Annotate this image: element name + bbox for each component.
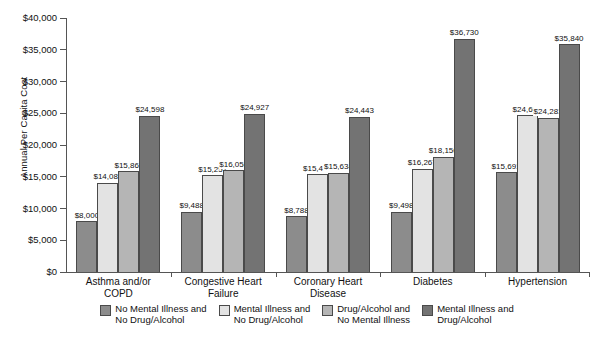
bar-slot: $14,081 <box>97 18 118 272</box>
bar[interactable] <box>181 212 202 272</box>
bar-slot: $9,488 <box>181 18 202 272</box>
y-axis-tick-label: $40,000 <box>23 12 57 24</box>
bar-slot: $15,430 <box>307 18 328 272</box>
bar-slot: $24,693 <box>517 18 538 272</box>
legend-swatch-icon <box>422 305 433 316</box>
bar-value-label: $9,488 <box>179 201 204 210</box>
legend-item[interactable]: Drug/Alcohol and No Mental Illness <box>322 303 410 325</box>
chart-legend: No Mental Illness and No Drug/AlcoholMen… <box>0 303 602 325</box>
bar[interactable] <box>454 39 475 272</box>
bar-slot: $16,267 <box>412 18 433 272</box>
y-axis-tick: $30,000 <box>0 76 66 88</box>
bar-slot: $16,058 <box>223 18 244 272</box>
y-axis-tick-label: $20,000 <box>23 139 57 151</box>
x-axis-tick-mark <box>589 272 590 277</box>
x-axis-category-label: Hypertension <box>473 276 602 288</box>
bar[interactable] <box>496 172 517 272</box>
bar[interactable] <box>97 183 118 272</box>
bar-group-bars: $8,788$15,430$15,634$24,443 <box>276 18 381 272</box>
legend-swatch-icon <box>219 305 230 316</box>
bar[interactable] <box>412 169 433 272</box>
bar-group-bars: $9,498$16,267$18,156$36,730 <box>380 18 485 272</box>
bar-slot: $15,862 <box>118 18 139 272</box>
bar[interactable] <box>307 174 328 272</box>
bar-slot: $15,634 <box>328 18 349 272</box>
bar[interactable] <box>244 114 265 272</box>
bar-value-label: $8,000 <box>74 211 99 220</box>
y-axis-tick: $20,000 <box>0 139 66 151</box>
bar-value-label: $35,840 <box>554 34 584 43</box>
y-axis-tick-label: $25,000 <box>23 107 57 119</box>
bar-group: $9,488$15,257$16,058$24,927Congestive He… <box>171 18 276 272</box>
y-axis-tick: $10,000 <box>0 203 66 215</box>
y-axis-tick: $35,000 <box>0 44 66 56</box>
legend-item-label: Mental Illness and Drug/Alcohol <box>437 303 514 325</box>
bar[interactable] <box>76 221 97 272</box>
y-axis-tick-label: $30,000 <box>23 76 57 88</box>
bar-slot: $24,281 <box>538 18 559 272</box>
legend-item-label: Mental Illness and No Drug/Alcohol <box>234 303 311 325</box>
bar[interactable] <box>517 115 538 272</box>
bar[interactable] <box>223 170 244 272</box>
bar-group-bars: $9,488$15,257$16,058$24,927 <box>171 18 276 272</box>
x-axis-tick-mark <box>276 272 277 277</box>
bar-group-bars: $8,000$14,081$15,862$24,598 <box>66 18 171 272</box>
bar-group: $15,691$24,693$24,281$35,840Hypertension <box>485 18 590 272</box>
bar[interactable] <box>391 212 412 272</box>
bar-value-label: $24,443 <box>345 106 375 115</box>
y-axis-tick-label: $35,000 <box>23 44 57 56</box>
bar-slot: $24,598 <box>139 18 160 272</box>
bar[interactable] <box>538 118 559 272</box>
bar[interactable] <box>202 175 223 272</box>
plot-area: $8,000$14,081$15,862$24,598Asthma and/or… <box>66 18 590 272</box>
bar-value-label: $8,788 <box>284 206 309 215</box>
bar[interactable] <box>139 116 160 272</box>
bar-group: $8,788$15,430$15,634$24,443Coronary Hear… <box>276 18 381 272</box>
x-axis-tick-mark <box>380 272 381 277</box>
y-axis-tick: $25,000 <box>0 107 66 119</box>
bar-slot: $15,691 <box>496 18 517 272</box>
bar-slot: $24,443 <box>349 18 370 272</box>
bar-group: $8,000$14,081$15,862$24,598Asthma and/or… <box>66 18 171 272</box>
x-axis-tick-mark <box>171 272 172 277</box>
legend-item[interactable]: Mental Illness and No Drug/Alcohol <box>219 303 311 325</box>
legend-swatch-icon <box>322 305 333 316</box>
legend-item-label: Drug/Alcohol and No Mental Illness <box>337 303 410 325</box>
x-axis-line <box>66 272 590 273</box>
legend-swatch-icon <box>100 305 111 316</box>
bar-slot: $15,257 <box>202 18 223 272</box>
bar-slot: $9,498 <box>391 18 412 272</box>
y-axis-tick-label: $5,000 <box>28 234 57 246</box>
y-axis-tick: $15,000 <box>0 171 66 183</box>
bar-slot: $18,156 <box>433 18 454 272</box>
legend-item[interactable]: Mental Illness and Drug/Alcohol <box>422 303 514 325</box>
bar-value-label: $36,730 <box>449 28 479 37</box>
bar-chart: Annual Per Capita Cost $0$5,000$10,000$1… <box>0 0 602 343</box>
bar-slot: $36,730 <box>454 18 475 272</box>
y-axis-tick-label: $10,000 <box>23 203 57 215</box>
bar-slot: $35,840 <box>559 18 580 272</box>
bar-slot: $24,927 <box>244 18 265 272</box>
bar-value-label: $24,598 <box>135 105 165 114</box>
bar[interactable] <box>349 117 370 272</box>
bar[interactable] <box>433 157 454 272</box>
y-axis-tick: $5,000 <box>0 234 66 246</box>
y-axis-tick-label: $15,000 <box>23 171 57 183</box>
bar-slot: $8,788 <box>286 18 307 272</box>
legend-item-label: No Mental Illness and No Drug/Alcohol <box>115 303 206 325</box>
bar-slot: $8,000 <box>76 18 97 272</box>
x-axis-tick-mark <box>485 272 486 277</box>
y-axis-tick: $40,000 <box>0 12 66 24</box>
bar[interactable] <box>118 171 139 272</box>
bar-value-label: $9,498 <box>389 201 414 210</box>
bar-value-label: $24,927 <box>240 103 270 112</box>
legend-item[interactable]: No Mental Illness and No Drug/Alcohol <box>100 303 206 325</box>
y-axis-title: Annual Per Capita Cost <box>18 43 29 213</box>
bar[interactable] <box>328 173 349 272</box>
bar[interactable] <box>559 44 580 272</box>
bar-group-bars: $15,691$24,693$24,281$35,840 <box>485 18 590 272</box>
bar-group: $9,498$16,267$18,156$36,730Diabetes <box>380 18 485 272</box>
bar[interactable] <box>286 216 307 272</box>
